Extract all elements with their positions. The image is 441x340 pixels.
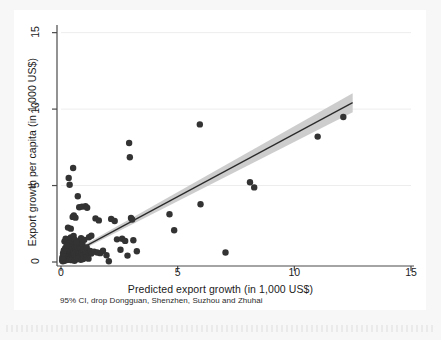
y-tick-label: 15 (29, 20, 41, 44)
y-tick-label: 5 (29, 173, 41, 197)
axis-lines (57, 25, 414, 266)
y-axis-title: Export growth per capita (in 1,000 US$) (26, 32, 38, 272)
x-tick-label: 5 (166, 266, 190, 278)
chart-figure: Predicted export growth (in 1,000 US$) E… (0, 0, 441, 340)
x-tick-label: 10 (282, 266, 306, 278)
chart-note: 95% CI, drop Dongguan, Shenzhen, Suzhou … (60, 296, 263, 305)
regression-line (68, 103, 353, 256)
x-tick-label: 0 (49, 266, 73, 278)
y-tick-label: 0 (29, 249, 41, 273)
x-axis-title: Predicted export growth (in 1,000 US$) (0, 283, 441, 295)
y-tick-label: 10 (29, 96, 41, 120)
x-tick-label: 15 (399, 266, 423, 278)
page-edge-artifact (6, 325, 436, 332)
